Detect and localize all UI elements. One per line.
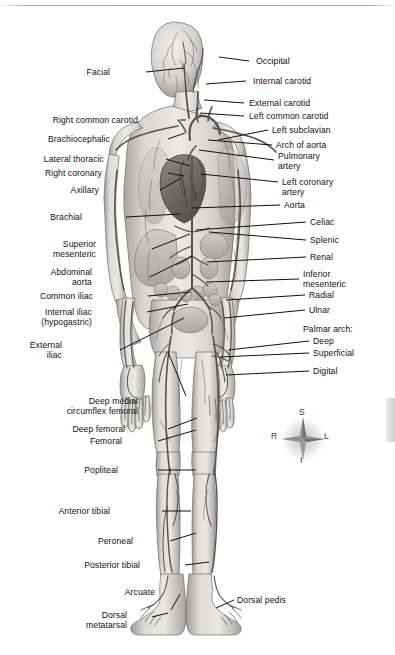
- label-line: Femoral: [90, 437, 122, 447]
- label-line: Digital: [313, 367, 337, 377]
- label-brachial: Brachial: [50, 213, 82, 223]
- label-arch-of-aorta: Arch of aorta: [276, 141, 326, 151]
- label-superior-mesenteric: Superiormesenteric: [53, 240, 96, 259]
- label-line: Right coronary: [45, 169, 102, 179]
- compass-left-label: L: [324, 431, 329, 441]
- label-popliteal: Popliteal: [84, 466, 118, 476]
- label-line: Brachial: [50, 213, 82, 223]
- label-line: Dorsal pedis: [237, 596, 286, 606]
- label-deep-femoral: Deep femoral: [72, 425, 125, 435]
- label-line: Deep: [313, 337, 334, 347]
- label-line: iliac: [30, 351, 62, 361]
- label-line: circumflex femoral: [67, 407, 138, 417]
- label-left-subclavian: Left subclavian: [272, 126, 331, 136]
- label-line: Left subclavian: [272, 126, 331, 136]
- anatomical-orientation-rose: S I R L: [272, 408, 334, 470]
- label-line: Superficial: [313, 349, 354, 359]
- label-common-iliac: Common iliac: [40, 292, 93, 302]
- label-palmar-arch: Palmar arch:: [303, 325, 353, 335]
- label-line: Lateral thoracic: [44, 155, 104, 165]
- label-aorta: Aorta: [284, 201, 305, 211]
- compass-inferior-label: I: [300, 455, 302, 465]
- label-digital: Digital: [313, 367, 337, 377]
- label-line: External carotid: [249, 99, 310, 109]
- label-line: mesenteric: [53, 250, 96, 260]
- label-internal-carotid: Internal carotid: [253, 77, 311, 87]
- label-external-iliac: Externaliliac: [30, 341, 62, 360]
- label-external-carotid: External carotid: [249, 99, 310, 109]
- label-line: metatarsal: [86, 621, 127, 631]
- label-line: Deep femoral: [72, 425, 125, 435]
- label-arcuate: Arcuate: [125, 588, 155, 598]
- label-line: Left common carotid: [249, 112, 329, 122]
- label-line: Arch of aorta: [276, 141, 326, 151]
- label-line: aorta: [51, 278, 92, 288]
- label-celiac: Celiac: [310, 218, 334, 228]
- label-line: mesenteric: [303, 280, 346, 290]
- label-line: Right common carotid: [53, 116, 138, 126]
- label-palmar-arch-superficial: Superficial: [313, 349, 354, 359]
- label-line: Common iliac: [40, 292, 93, 302]
- label-line: Ulnar: [309, 306, 330, 316]
- label-line: Internal carotid: [253, 77, 311, 87]
- label-palmar-arch-deep: Deep: [313, 337, 334, 347]
- label-right-common-carotid: Right common carotid: [53, 116, 138, 126]
- label-renal: Renal: [310, 253, 333, 263]
- label-right-coronary: Right coronary: [45, 169, 102, 179]
- label-line: Celiac: [310, 218, 334, 228]
- label-line: Splenic: [310, 236, 339, 246]
- label-line: Brachiocephalic: [48, 135, 110, 145]
- label-anterior-tibial: Anterior tibial: [59, 507, 110, 517]
- label-internal-iliac: Internal iliac(hypogastric): [41, 308, 92, 327]
- label-line: Popliteal: [84, 466, 118, 476]
- label-line: Peroneal: [98, 537, 133, 547]
- label-line: Anterior tibial: [59, 507, 110, 517]
- compass-right-label: R: [271, 431, 277, 441]
- label-line: Arcuate: [125, 588, 155, 598]
- label-facial: Facial: [87, 68, 110, 78]
- label-left-common-carotid: Left common carotid: [249, 112, 329, 122]
- label-dorsal-metatarsal: Dorsalmetatarsal: [86, 611, 127, 630]
- label-abdominal-aorta: Abdominalaorta: [51, 268, 92, 287]
- label-splenic: Splenic: [310, 236, 339, 246]
- label-brachiocephalic: Brachiocephalic: [48, 135, 110, 145]
- label-line: Occipital: [256, 57, 290, 67]
- label-posterior-tibial: Posterior tibial: [84, 561, 140, 571]
- label-deep-medial-circumflex-femoral: Deep medialcircumflex femoral: [67, 397, 138, 416]
- label-inferior-mesenteric: Inferiormesenteric: [303, 270, 346, 289]
- label-ulnar: Ulnar: [309, 306, 330, 316]
- label-pulmonary-artery: Pulmonaryartery: [278, 152, 320, 171]
- label-line: Radial: [309, 291, 334, 301]
- label-line: Renal: [310, 253, 333, 263]
- label-peroneal: Peroneal: [98, 537, 133, 547]
- label-lateral-thoracic: Lateral thoracic: [44, 155, 104, 165]
- label-line: artery: [278, 162, 320, 172]
- label-line: Axillary: [71, 186, 99, 196]
- label-line: (hypogastric): [41, 318, 92, 328]
- label-line: Posterior tibial: [84, 561, 140, 571]
- label-line: Aorta: [284, 201, 305, 211]
- label-left-coronary-artery: Left coronaryartery: [282, 178, 333, 197]
- label-femoral: Femoral: [90, 437, 122, 447]
- label-dorsal-pedis: Dorsal pedis: [237, 596, 286, 606]
- label-radial: Radial: [309, 291, 334, 301]
- arterial-system-figure: FacialRight common carotidBrachiocephali…: [0, 0, 395, 655]
- compass-superior-label: S: [299, 407, 305, 417]
- label-line: Facial: [87, 68, 110, 78]
- label-line: artery: [282, 188, 333, 198]
- label-line: Palmar arch:: [303, 325, 353, 335]
- label-occipital: Occipital: [256, 57, 290, 67]
- label-axillary: Axillary: [71, 186, 99, 196]
